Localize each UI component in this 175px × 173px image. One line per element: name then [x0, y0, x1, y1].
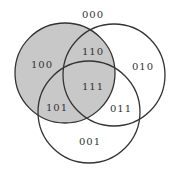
- venn-svg: 000 100 110 010 111 101 011 001: [0, 0, 175, 173]
- label-110: 110: [82, 46, 104, 57]
- label-111: 111: [82, 81, 104, 92]
- label-000: 000: [82, 9, 104, 20]
- label-001: 001: [79, 136, 101, 147]
- label-011: 011: [110, 103, 132, 114]
- label-010: 010: [132, 61, 154, 72]
- label-101: 101: [46, 102, 68, 113]
- venn-diagram: 000 100 110 010 111 101 011 001: [0, 0, 175, 173]
- label-100: 100: [31, 59, 53, 70]
